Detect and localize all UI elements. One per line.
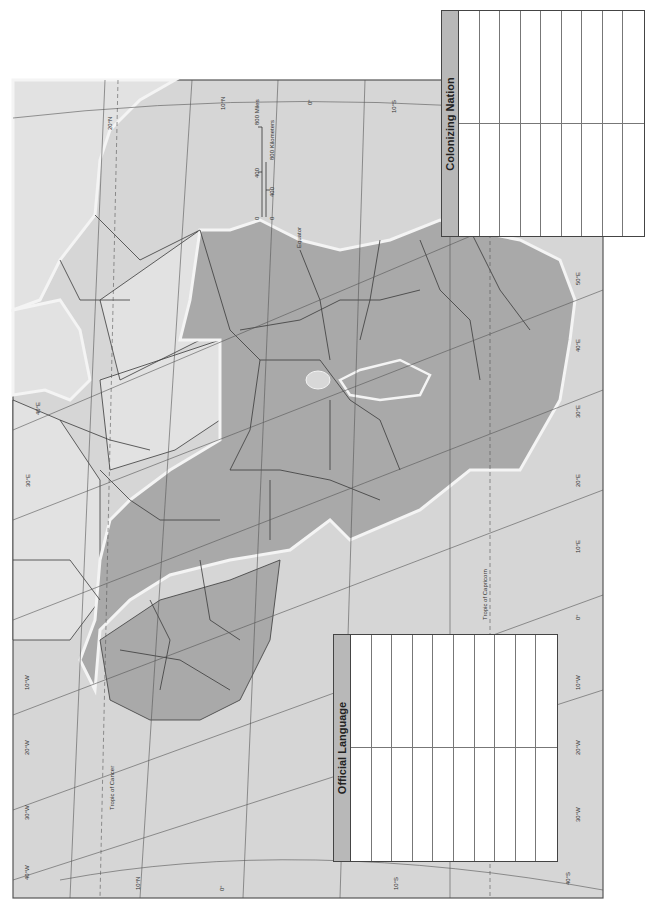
colonizing-nation-grid[interactable] bbox=[459, 11, 644, 236]
scale-km-400: 400 bbox=[269, 186, 275, 197]
lat-label-bottom-3: 10°S bbox=[393, 877, 399, 890]
official-language-grid[interactable] bbox=[351, 635, 557, 861]
lat-label-top-4: 10°S bbox=[391, 100, 397, 113]
equator-label: Equator bbox=[296, 227, 302, 248]
colonizing-nation-cell[interactable] bbox=[521, 11, 542, 124]
colonizing-nation-cell[interactable] bbox=[582, 11, 603, 124]
official-language-cell[interactable] bbox=[392, 635, 413, 748]
lon-label-right-1: 50°E bbox=[575, 272, 581, 285]
lon-label-left-1: 40°E bbox=[35, 402, 41, 415]
official-language-cell[interactable] bbox=[536, 635, 557, 748]
lon-label-right-5: 10°E bbox=[575, 540, 581, 553]
lake-victoria bbox=[306, 371, 330, 389]
lat-label-top-1: 20°N bbox=[107, 117, 113, 130]
lon-label-right-9: 30°W bbox=[575, 807, 581, 822]
colonizing-nation-cell[interactable] bbox=[562, 11, 583, 124]
official-language-cell[interactable] bbox=[413, 635, 434, 748]
lat-label-bottom-2: 0° bbox=[219, 885, 225, 891]
colonizing-nation-cell[interactable] bbox=[480, 124, 501, 237]
official-language-cell[interactable] bbox=[454, 748, 475, 861]
lon-label-left-3: 10°W bbox=[24, 675, 30, 690]
scale-miles-800: 800 Miles bbox=[254, 99, 260, 125]
official-language-cell[interactable] bbox=[516, 635, 537, 748]
lon-label-right-6: 0° bbox=[575, 614, 581, 620]
scale-miles-400: 400 bbox=[254, 167, 260, 178]
tropic-of-capricorn-label: Tropic of Capricorn bbox=[482, 569, 488, 620]
colonizing-nation-cell[interactable] bbox=[603, 124, 624, 237]
colonizing-nation-header: Colonizing Nation bbox=[442, 11, 459, 236]
official-language-cell[interactable] bbox=[392, 748, 413, 861]
lon-label-left-4: 20°W bbox=[24, 740, 30, 755]
colonizing-nation-cell[interactable] bbox=[541, 124, 562, 237]
official-language-cell[interactable] bbox=[536, 748, 557, 861]
official-language-cell[interactable] bbox=[372, 748, 393, 861]
colonizing-nation-table: Colonizing Nation bbox=[441, 10, 645, 237]
colonizing-nation-cell[interactable] bbox=[459, 11, 480, 124]
colonizing-nation-cell[interactable] bbox=[459, 124, 480, 237]
colonizing-nation-cell[interactable] bbox=[582, 124, 603, 237]
colonizing-nation-cell[interactable] bbox=[623, 124, 644, 237]
official-language-table: Official Language bbox=[333, 634, 558, 862]
lon-label-right-8: 20°W bbox=[575, 740, 581, 755]
official-language-cell[interactable] bbox=[475, 635, 496, 748]
colonizing-nation-title: Colonizing Nation bbox=[444, 77, 456, 170]
lon-label-left-5: 30°W bbox=[24, 805, 30, 820]
colonizing-nation-cell[interactable] bbox=[500, 124, 521, 237]
tropic-of-cancer-label: Tropic of Cancer bbox=[109, 766, 115, 810]
colonizing-nation-cell[interactable] bbox=[541, 11, 562, 124]
official-language-cell[interactable] bbox=[516, 748, 537, 861]
colonizing-nation-cell[interactable] bbox=[603, 11, 624, 124]
lat-label-top-2: 10°N bbox=[220, 97, 226, 110]
lat-label-bottom-1: 10°N bbox=[135, 877, 141, 890]
lon-label-left-6: 40°W bbox=[24, 865, 30, 880]
colonizing-nation-cell[interactable] bbox=[480, 11, 501, 124]
colonizing-nation-cell[interactable] bbox=[623, 11, 644, 124]
official-language-header: Official Language bbox=[334, 635, 351, 861]
official-language-cell[interactable] bbox=[433, 635, 454, 748]
official-language-cell[interactable] bbox=[475, 748, 496, 861]
lon-label-right-4: 20°E bbox=[575, 474, 581, 487]
official-language-cell[interactable] bbox=[351, 635, 372, 748]
official-language-cell[interactable] bbox=[495, 748, 516, 861]
official-language-title: Official Language bbox=[336, 702, 348, 794]
official-language-cell[interactable] bbox=[495, 635, 516, 748]
official-language-cell[interactable] bbox=[372, 635, 393, 748]
lon-label-right-2: 40°E bbox=[575, 339, 581, 352]
official-language-cell[interactable] bbox=[454, 635, 475, 748]
lat-label-top-3: 0° bbox=[307, 99, 313, 105]
colonizing-nation-cell[interactable] bbox=[500, 11, 521, 124]
official-language-cell[interactable] bbox=[433, 748, 454, 861]
lon-label-right-7: 10°W bbox=[575, 675, 581, 690]
lon-label-right-10: 40°S bbox=[565, 872, 571, 885]
lon-label-left-2: 30°E bbox=[25, 474, 31, 487]
lon-label-right-3: 30°E bbox=[575, 405, 581, 418]
scale-km-800: 800 Kilometers bbox=[269, 120, 275, 160]
official-language-cell[interactable] bbox=[351, 748, 372, 861]
official-language-cell[interactable] bbox=[413, 748, 434, 861]
colonizing-nation-cell[interactable] bbox=[562, 124, 583, 237]
colonizing-nation-cell[interactable] bbox=[521, 124, 542, 237]
